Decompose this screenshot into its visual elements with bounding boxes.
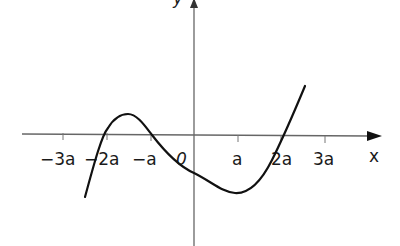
tick-label-neg2a: −2a	[84, 149, 119, 169]
function-graph: y −3a −2a −a 0 a 2a 3a x	[0, 0, 400, 246]
tick-label-a: a	[232, 149, 242, 169]
x-axis	[22, 134, 370, 136]
function-curve	[85, 86, 305, 197]
graph-canvas: y −3a −2a −a 0 a 2a 3a x	[0, 0, 400, 246]
tick-label-nega: −a	[132, 149, 157, 169]
y-axis-arrow-icon	[190, 0, 198, 8]
tick-label-2a: 2a	[271, 149, 292, 169]
y-axis-label: y	[172, 0, 184, 8]
tick-label-3a: 3a	[313, 149, 334, 169]
x-axis-arrow-icon	[367, 131, 382, 141]
x-axis-label: x	[369, 146, 379, 166]
tick-label-neg3a: −3a	[40, 149, 75, 169]
